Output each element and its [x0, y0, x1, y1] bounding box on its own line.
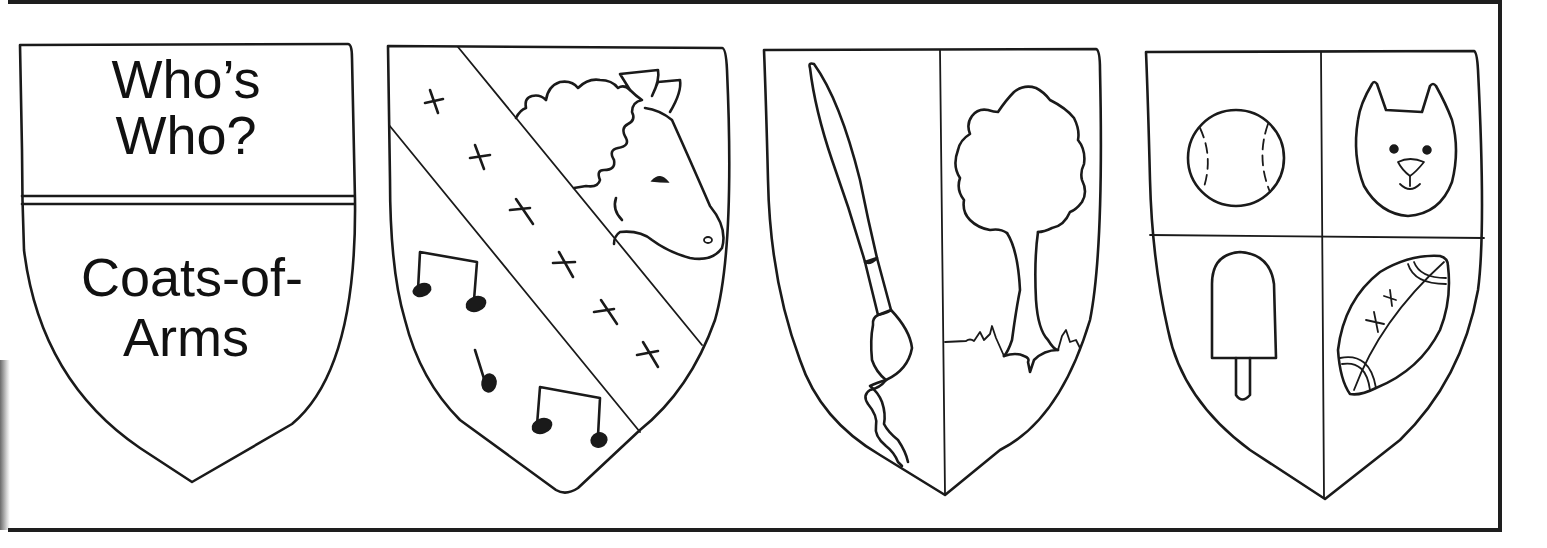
title-shield: Who’s Who? Coats-of- Arms — [20, 44, 355, 482]
eighth-note-pair-icon — [411, 252, 487, 314]
ice-pop-icon — [1212, 252, 1276, 400]
title-line-2: Who? — [115, 105, 256, 165]
title-line-4: Arms — [123, 307, 249, 367]
eighth-note-icon — [475, 350, 497, 393]
eighth-note-pair-icon — [530, 387, 609, 449]
cross-icon — [553, 252, 575, 277]
cross-icon — [425, 90, 443, 113]
football-icon — [1338, 256, 1449, 395]
per-pale-shield — [764, 49, 1101, 495]
tree-icon — [945, 87, 1085, 372]
cat-face-icon — [1356, 82, 1456, 216]
bend-shield — [388, 46, 729, 493]
title-line-3: Coats-of- — [81, 247, 303, 307]
coats-of-arms-artwork: Who’s Who? Coats-of- Arms — [0, 0, 1547, 548]
cross-icon — [510, 199, 533, 224]
horse-head-icon — [516, 70, 724, 259]
cross-icon — [594, 300, 617, 324]
cross-icon — [637, 342, 658, 367]
title-line-1: Who’s — [111, 49, 260, 109]
illustration-page: Who’s Who? Coats-of- Arms — [0, 0, 1547, 548]
cross-icon — [470, 145, 490, 169]
baseball-icon — [1188, 110, 1284, 206]
quarterly-shield — [1146, 51, 1484, 499]
